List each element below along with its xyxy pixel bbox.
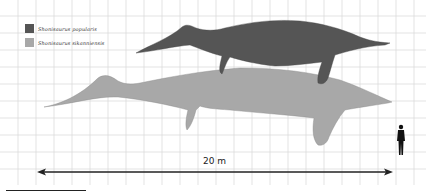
legend: Shonisaurus popularis Shonisaurus sikann… — [25, 22, 105, 50]
legend-swatch-popularis — [25, 24, 34, 33]
legend-item-sikanniensis: Shonisaurus sikanniensis — [25, 36, 105, 49]
shonisaurus-sikanniensis-silhouette — [44, 68, 392, 145]
human-silhouette — [397, 125, 405, 155]
legend-swatch-sikanniensis — [25, 38, 34, 47]
legend-item-popularis: Shonisaurus popularis — [25, 22, 105, 35]
scale-label: 20 m — [203, 156, 226, 166]
legend-label: Shonisaurus popularis — [38, 26, 97, 32]
bottom-rule — [6, 190, 86, 191]
legend-label: Shonisaurus sikanniensis — [38, 40, 105, 46]
